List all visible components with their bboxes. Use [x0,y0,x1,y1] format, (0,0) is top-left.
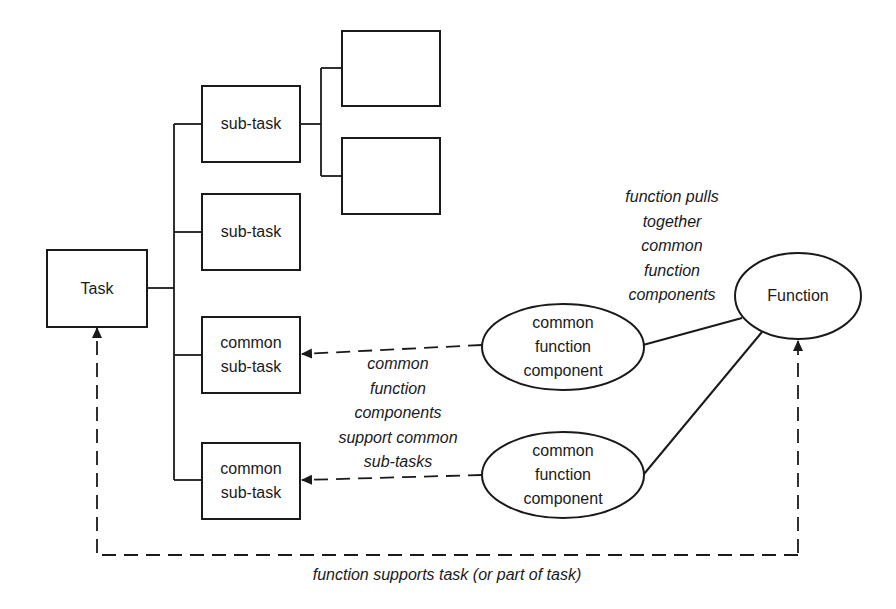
function-label-text: Function [767,284,828,308]
common-subtask-label-2: common sub-task [202,443,300,519]
function-label: Function [735,253,861,339]
dashed-arrow-component2-to-subtask [302,475,482,480]
pulls-line-4: function [592,259,752,284]
pulls-line-3: common [592,234,752,259]
support-line-1: common [318,352,478,377]
link-component1-function [643,318,742,345]
subtask-2-text: sub-task [221,222,281,242]
support-line-5: sub-tasks [318,450,478,475]
annotation-pulls-together: function pulls together common function … [592,185,752,308]
annotation-support-common: common function components support commo… [318,352,478,475]
common-subtask-2-line-2: sub-task [221,481,281,505]
link-component2-function [644,332,762,474]
subtask-label-2: sub-task [202,194,300,270]
support-line-4: support common [318,426,478,451]
common-subtask-1-line-2: sub-task [221,355,281,379]
support-line-2: function [318,377,478,402]
component-label-1: common function component [482,304,644,390]
common-subtask-label-1: common sub-task [202,317,300,393]
component-2-line-1: common [532,439,593,463]
pulls-line-5: components [592,283,752,308]
support-line-3: components [318,401,478,426]
child-box-1 [342,31,440,106]
component-2-line-3: component [523,487,602,511]
supports-task-text: function supports task (or part of task) [313,566,582,583]
common-subtask-1-line-1: common [220,331,281,355]
task-label: Task [47,250,147,327]
component-1-line-3: component [523,359,602,383]
common-subtask-2-line-1: common [220,457,281,481]
child-box-2 [342,138,440,214]
annotation-supports-task: function supports task (or part of task) [247,563,647,588]
pulls-line-2: together [592,210,752,235]
pulls-line-1: function pulls [592,185,752,210]
subtask-1-text: sub-task [221,114,281,134]
subtask-label-1: sub-task [202,86,300,162]
task-label-text: Task [81,279,114,299]
component-1-line-1: common [532,311,593,335]
component-1-line-2: function [535,335,591,359]
component-2-line-2: function [535,463,591,487]
component-label-2: common function component [482,432,644,518]
